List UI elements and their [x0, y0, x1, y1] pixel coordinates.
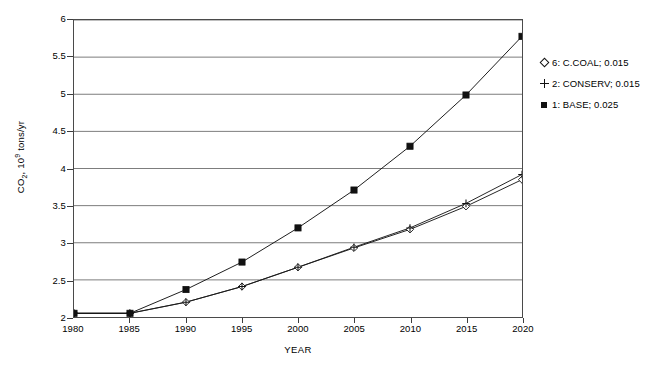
- x-axis-tick-mark: [298, 318, 299, 323]
- data-point-base: [519, 33, 522, 39]
- y-axis-title: CO2, 109 tons/yr: [14, 92, 28, 222]
- data-point-base: [463, 92, 469, 98]
- legend-item[interactable]: 1: BASE; 0.025: [536, 96, 666, 113]
- series-line-conserv: [74, 174, 522, 313]
- y-axis-title-superscript: 9: [14, 154, 21, 158]
- x-axis-title: YEAR: [0, 344, 596, 355]
- y-axis-tick-label: 5.5: [36, 51, 66, 61]
- series-line-ccoal: [74, 180, 522, 314]
- x-axis-tick-label: 1995: [222, 324, 262, 334]
- data-point-conserv: [350, 243, 358, 251]
- data-point-base: [351, 187, 357, 193]
- x-axis-tick-mark: [411, 318, 412, 323]
- y-axis-tick-label: 5: [36, 89, 66, 99]
- y-axis-tick-label: 6: [36, 14, 66, 24]
- x-axis-tick-label: 1990: [166, 324, 206, 334]
- legend-marker-shape: [539, 58, 549, 68]
- y-axis-title-mid: , 10: [15, 158, 26, 175]
- data-point-base: [183, 286, 189, 292]
- x-axis-tick-label: 2005: [334, 324, 374, 334]
- x-axis-tick-mark: [354, 318, 355, 323]
- legend-item[interactable]: 6: C.COAL; 0.015: [536, 54, 666, 71]
- x-axis-tick-label: 2000: [278, 324, 318, 334]
- x-axis-tick-label: 2010: [391, 324, 431, 334]
- legend-label: 2: CONSERV; 0.015: [552, 78, 640, 89]
- x-axis-tick-label: 2020: [503, 324, 543, 334]
- legend: 6: C.COAL; 0.0152: CONSERV; 0.0151: BASE…: [536, 54, 666, 117]
- y-axis-tick-label: 3: [36, 238, 66, 248]
- data-point-base: [239, 259, 245, 265]
- data-point-base: [127, 310, 133, 316]
- y-axis-tick-mark: [67, 318, 73, 319]
- data-point-base: [295, 225, 301, 231]
- legend-label: 6: C.COAL; 0.015: [552, 57, 629, 68]
- x-axis-tick-label: 1985: [109, 324, 149, 334]
- legend-marker-shape: [541, 102, 547, 108]
- x-axis-tick-mark: [129, 318, 130, 323]
- y-axis-title-subscript: 2: [21, 174, 28, 178]
- square-marker-icon: [536, 99, 552, 111]
- y-axis-title-co: CO: [15, 178, 26, 193]
- x-axis-tick-mark: [467, 318, 468, 323]
- legend-item[interactable]: 2: CONSERV; 0.015: [536, 75, 666, 92]
- plus-marker-icon: [536, 78, 552, 90]
- data-point-conserv: [294, 263, 302, 271]
- x-axis-tick-mark: [242, 318, 243, 323]
- series-line-base: [74, 36, 522, 313]
- diamond-marker-icon: [536, 57, 552, 69]
- y-axis-title-tail: tons/yr: [15, 121, 26, 154]
- data-series-layer: [74, 20, 522, 317]
- legend-marker-shape: [540, 79, 549, 88]
- y-axis-tick-label: 4: [36, 164, 66, 174]
- y-axis-tick-label: 3.5: [36, 201, 66, 211]
- data-point-conserv: [238, 283, 246, 291]
- plot-area: [73, 19, 523, 318]
- y-axis-tick-label: 2: [36, 313, 66, 323]
- y-axis-tick-label: 4.5: [36, 126, 66, 136]
- x-axis-tick-mark: [186, 318, 187, 323]
- data-point-base: [74, 310, 77, 316]
- data-point-conserv: [182, 298, 190, 306]
- legend-label: 1: BASE; 0.025: [552, 99, 618, 110]
- data-point-base: [407, 143, 413, 149]
- chart-container: CO2, 109 tons/yr 22.533.544.555.56 19801…: [0, 0, 669, 370]
- data-point-ccoal: [518, 176, 522, 183]
- y-axis-tick-label: 2.5: [36, 276, 66, 286]
- x-axis-tick-label: 1980: [53, 324, 93, 334]
- x-axis-tick-label: 2015: [447, 324, 487, 334]
- y-axis-tick-labels: 22.533.544.555.56: [32, 0, 66, 370]
- x-axis-tick-mark: [523, 318, 524, 323]
